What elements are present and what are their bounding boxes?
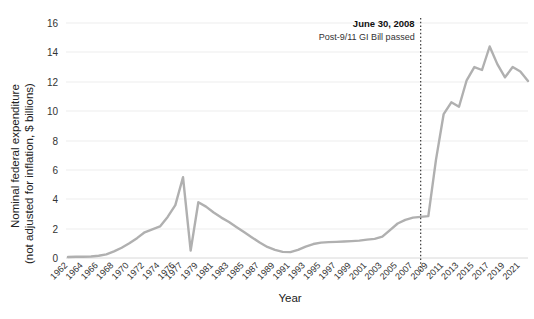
y-tick-2: 2 — [52, 224, 58, 235]
chart-container: Nominal federal expenditure (not adjuste… — [0, 0, 534, 319]
x-axis-title: Year — [278, 292, 301, 304]
y-tick-0: 0 — [52, 253, 58, 264]
y-tick-6: 6 — [52, 165, 58, 176]
y-axis-title-line2: (not adjusted for inflation, $ billions) — [23, 83, 35, 264]
x-tick-2021: 2021 — [501, 260, 522, 281]
y-tick-12: 12 — [47, 77, 59, 88]
series-line-nominal-federal-expenditure — [68, 47, 528, 257]
y-tick-10: 10 — [47, 106, 59, 117]
annotation-description-label: Post-9/11 GI Bill passed — [319, 32, 415, 42]
annotation-date-label: June 30, 2008 — [353, 18, 415, 29]
y-tick-8: 8 — [52, 136, 58, 147]
x-axis-ticks: 1962196419661968197019721974197619771979… — [48, 260, 522, 281]
y-axis-title-line1: Nominal federal expenditure — [9, 84, 21, 228]
event-annotation: June 30, 2008 Post-9/11 GI Bill passed — [319, 18, 421, 272]
line-chart: Nominal federal expenditure (not adjuste… — [0, 0, 534, 319]
y-tick-4: 4 — [52, 194, 58, 205]
y-tick-16: 16 — [47, 18, 59, 29]
y-tick-14: 14 — [47, 47, 59, 58]
y-axis-ticks: 16 14 12 10 8 6 4 2 0 — [47, 18, 59, 264]
y-axis-title: Nominal federal expenditure (not adjuste… — [9, 83, 35, 264]
gridlines — [66, 23, 528, 258]
